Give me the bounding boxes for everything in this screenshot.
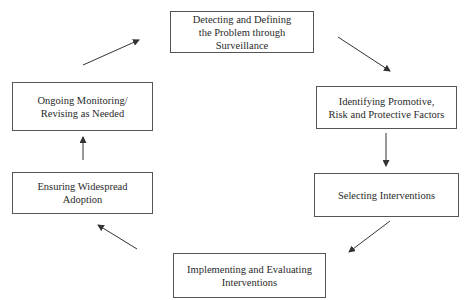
node-detect-line-1: Detecting and Defining [177,13,307,26]
node-identify-line-1: Identifying Promotive, [329,95,445,108]
node-monitor: Ongoing Monitoring/ Revising as Needed [12,82,153,131]
node-identify: Identifying Promotive, Risk and Protecti… [316,86,457,129]
node-select-line-1: Selecting Interventions [338,189,435,202]
node-adopt: Ensuring Widespread Adoption [12,172,153,214]
node-adopt-line-1: Ensuring Widespread Adoption [19,180,146,206]
node-identify-line-2: Risk and Protective Factors [329,108,445,121]
arrow-select-to-implement [349,221,390,252]
node-select: Selecting Interventions [314,173,459,217]
node-detect-line-2: the Problem through Surveillance [177,26,307,52]
arrow-implement-to-adopt [98,225,137,249]
node-monitor-line-2: Revising as Needed [37,107,127,120]
node-implement-line-2: Interventions [187,276,312,289]
node-monitor-line-1: Ongoing Monitoring/ [37,94,127,107]
arrow-monitor-to-detect [83,40,139,65]
node-detect: Detecting and Defining the Problem throu… [170,11,314,53]
node-implement: Implementing and Evaluating Intervention… [173,253,326,298]
node-implement-line-1: Implementing and Evaluating [187,263,312,276]
arrow-detect-to-identify [338,37,390,71]
